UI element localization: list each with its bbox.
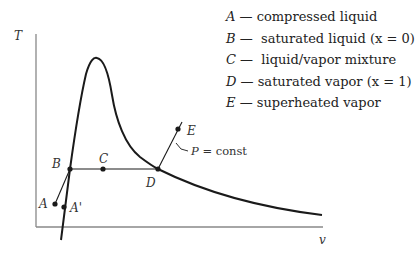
label-e: E [187,124,196,138]
legend-desc: liquid/vapor mixture [261,52,396,67]
point-c [100,166,105,171]
pressure-const-label: P = const [191,144,247,158]
legend-key: C [226,52,236,67]
pressure-const-text: = const [199,144,247,158]
legend-sep: — [235,9,256,24]
legend-key: D [226,74,236,89]
label-a: A [39,197,48,211]
label-a-prime: A' [70,201,82,215]
legend-item-d: D — saturated vapor (x = 1) [226,71,415,93]
legend: A — compressed liquid B — saturated liqu… [226,6,415,114]
x-axis-label: v [319,233,326,247]
legend-item-e: E — superheated vapor [226,92,415,114]
legend-desc: saturated vapor (x = 1) [258,74,412,89]
point-d [155,166,160,171]
legend-sep: — [236,95,257,110]
label-b: B [52,157,61,171]
point-b [67,166,72,171]
label-d: D [146,176,156,190]
legend-sep: — [236,74,257,89]
legend-key: E [226,95,236,110]
point-a-prime [61,204,66,209]
pressure-leader-line [176,143,188,151]
legend-desc: compressed liquid [257,9,378,24]
y-axis-label: T [14,29,22,43]
legend-desc: superheated vapor [257,95,381,110]
legend-item-a: A — compressed liquid [226,6,415,28]
legend-sep: — [236,52,261,67]
legend-key: B [226,31,236,46]
point-e [175,126,180,131]
legend-desc: saturated liquid (x = 0) [261,31,415,46]
legend-item-b: B — saturated liquid (x = 0) [226,28,415,50]
label-c: C [99,152,108,166]
legend-key: A [226,9,235,24]
point-a [52,201,57,206]
legend-item-c: C — liquid/vapor mixture [226,49,415,71]
pressure-symbol: P [191,144,199,158]
legend-sep: — [236,31,261,46]
